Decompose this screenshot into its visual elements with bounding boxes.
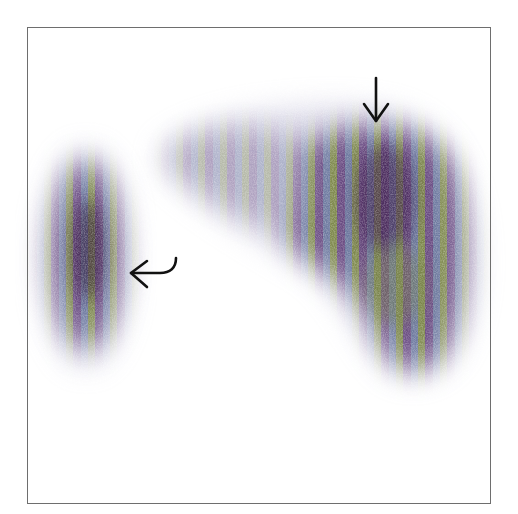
grain-overlay (27, 27, 491, 504)
scintigraphy-image (0, 0, 518, 514)
